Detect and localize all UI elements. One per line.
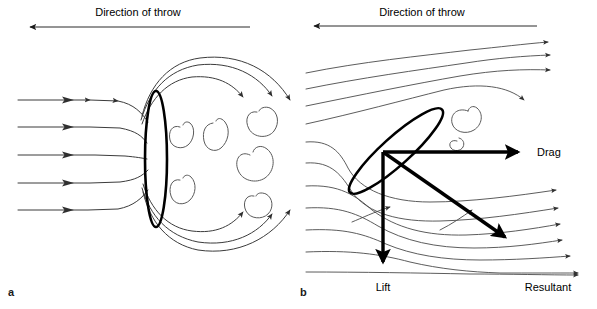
figure-container: Direction of throw	[0, 0, 597, 309]
throw-direction-label: Direction of throw	[95, 6, 181, 18]
lift-label: Lift	[376, 281, 391, 293]
panel-a-letter: a	[8, 286, 15, 298]
panel-b-letter: b	[300, 286, 307, 298]
throw-direction-label: Direction of throw	[379, 6, 465, 18]
drag-label: Drag	[537, 146, 561, 158]
resultant-label: Resultant	[525, 281, 571, 293]
discus-aerodynamics-figure: Direction of throw	[0, 0, 597, 309]
